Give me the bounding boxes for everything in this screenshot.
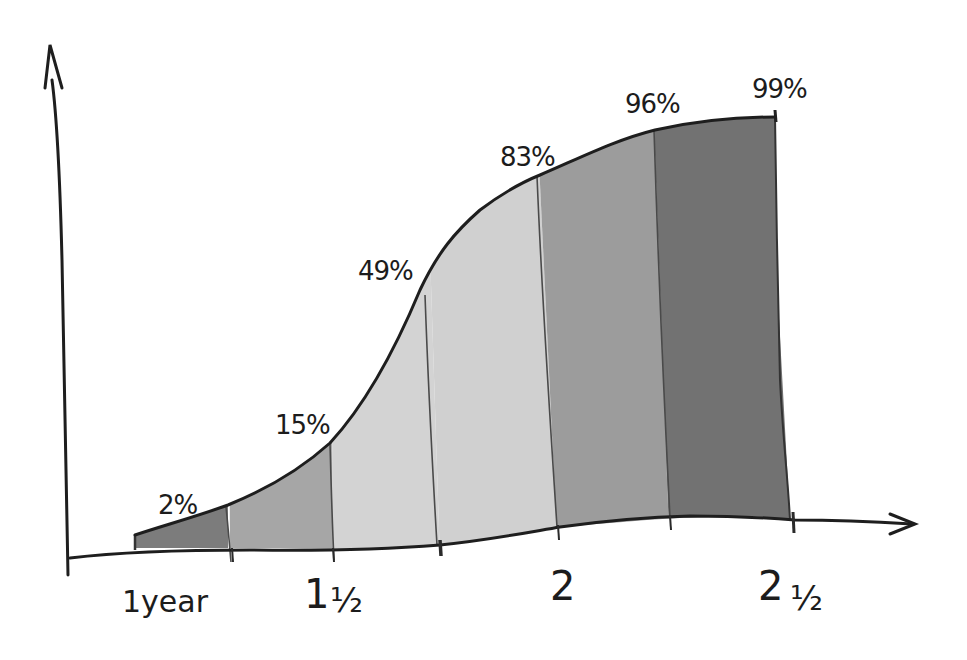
s-curve-chart: 2% 15% 49% 83% 96% 99% 1year 1 ½ 2 2 ½ [0,0,967,660]
tick-label-1-5-frac: ½ [330,580,363,620]
label-83pct: 83% [500,142,555,172]
tick-label-1year: 1year [122,584,209,619]
tick-label-2: 2 [550,563,575,609]
label-49pct: 49% [358,256,413,286]
label-99pct: 99% [752,74,807,104]
label-15pct: 15% [275,410,330,440]
y-axis [45,45,68,575]
label-2pct: 2% [158,490,198,520]
tick-label-2-5-whole: 2 [758,563,783,609]
tick-label-1-5-whole: 1 [304,571,329,617]
tick-label-2-5-frac: ½ [790,578,823,618]
label-96pct: 96% [625,89,680,119]
x-tick-labels: 1year 1 ½ 2 2 ½ [122,563,823,620]
band-3 [330,100,440,560]
shaded-bands [130,100,795,560]
band-6 [653,100,795,560]
band-2 [228,100,333,560]
